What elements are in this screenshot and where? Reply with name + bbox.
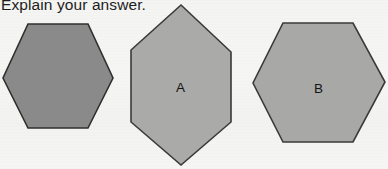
hexagon-a-label: A	[176, 81, 185, 95]
hexagon-unlabeled	[0, 20, 118, 132]
hexagon-b-label: B	[314, 82, 323, 96]
worksheet-page: Explain your answer. A B	[0, 0, 388, 169]
prompt-text: Explain your answer.	[1, 0, 146, 13]
hexagon-unlabeled-outline	[3, 24, 113, 128]
